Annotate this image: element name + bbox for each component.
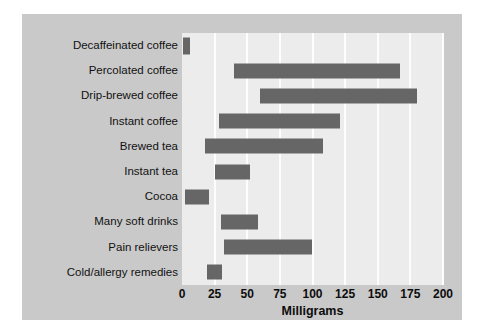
category-label: Instant tea [26,159,178,184]
category-label: Instant coffee [26,109,178,134]
x-tick-label: 75 [273,287,286,301]
x-tick-label: 200 [433,287,453,301]
x-axis-title: Milligrams [182,304,443,318]
x-tick-label: 100 [302,287,322,301]
x-tick-label: 175 [400,287,420,301]
category-label: Cold/allergy remedies [26,260,178,285]
bar-row [182,235,443,260]
bar-row [182,33,443,58]
bar-row [182,83,443,108]
bar-row [182,109,443,134]
bar-brewed-tea [205,139,322,154]
category-label: Pain relievers [26,235,178,260]
x-tick-label: 125 [335,287,355,301]
category-label: Percolated coffee [26,58,178,83]
category-axis: Decaffeinated coffeePercolated coffeeDri… [22,33,178,285]
bar-instant-coffee [219,114,340,129]
bar-cocoa [185,189,210,204]
bar-row [182,58,443,83]
bar-row [182,134,443,159]
bar-row [182,159,443,184]
category-label: Drip-brewed coffee [26,83,178,108]
bar-decaffeinated-coffee [183,37,190,54]
category-label: Cocoa [26,184,178,209]
bar-row [182,184,443,209]
x-tick-label: 0 [179,287,186,301]
category-label: Many soft drinks [26,209,178,234]
bar-drip-brewed-coffee [260,88,417,103]
chart-panel: Decaffeinated coffeePercolated coffeeDri… [22,14,462,320]
bar-percolated-coffee [234,63,400,78]
x-tick-label: 50 [241,287,254,301]
bar-row [182,260,443,285]
bar-cold-allergy-remedies [207,265,223,280]
category-label: Brewed tea [26,134,178,159]
plot-area [182,33,443,285]
x-axis-ticks: 0255075100125150175200 [182,287,443,303]
x-tick-label: 25 [208,287,221,301]
bar-pain-relievers [224,240,313,255]
x-tick-label: 150 [368,287,388,301]
bar-instant-tea [215,164,250,179]
bar-row [182,209,443,234]
category-label: Decaffeinated coffee [26,33,178,58]
bar-many-soft-drinks [221,214,258,229]
